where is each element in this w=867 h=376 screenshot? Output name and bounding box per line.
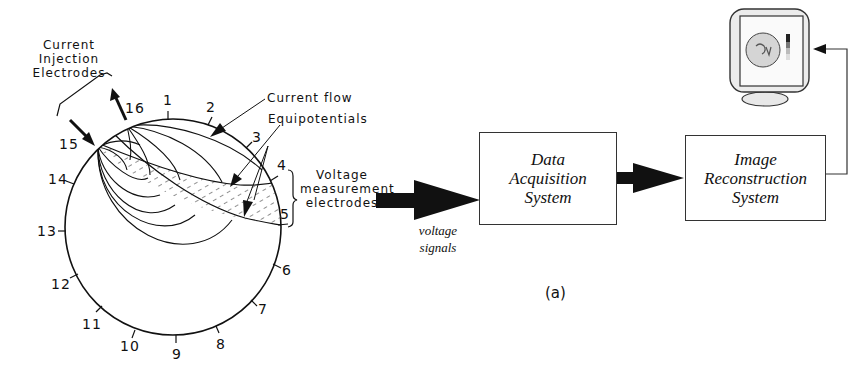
monitor-icon bbox=[730, 9, 809, 106]
equipotential-band bbox=[100, 133, 285, 226]
block-label: Data Acquisition System bbox=[509, 150, 586, 207]
electrode-15: 15 bbox=[59, 137, 79, 151]
data-acquisition-block: Data Acquisition System bbox=[479, 132, 617, 225]
voltage-measurement-label: Voltage measurement electrodes bbox=[300, 168, 384, 210]
label-line: Acquisition bbox=[509, 169, 586, 188]
electrode-13: 13 bbox=[37, 224, 57, 238]
label-line: Reconstruction bbox=[704, 169, 807, 188]
label-line: Injection bbox=[24, 52, 114, 66]
label-line: System bbox=[509, 188, 586, 207]
injection-electrodes-label: Current Injection Electrodes bbox=[24, 38, 114, 80]
label-line: voltage bbox=[410, 222, 466, 239]
data-flow-arrow bbox=[617, 163, 684, 193]
electrode-12: 12 bbox=[51, 277, 71, 291]
electrode-8: 8 bbox=[216, 337, 226, 351]
label-line: Electrodes bbox=[24, 66, 114, 80]
injection-arrow-out bbox=[110, 88, 126, 120]
block-label: Image Reconstruction System bbox=[704, 150, 807, 207]
label-line: signals bbox=[410, 239, 466, 256]
electrode-2: 2 bbox=[206, 100, 216, 114]
voltage-signals-label: voltage signals bbox=[410, 222, 466, 256]
electrode-16: 16 bbox=[125, 101, 145, 115]
electrode-10: 10 bbox=[120, 339, 140, 353]
label-line: Voltage bbox=[300, 168, 384, 182]
electrode-4: 4 bbox=[277, 158, 287, 172]
electrode-1: 1 bbox=[163, 93, 173, 107]
label-line: Image bbox=[704, 150, 807, 169]
label-line: System bbox=[704, 188, 807, 207]
electrode-3: 3 bbox=[252, 130, 262, 144]
image-reconstruction-block: Image Reconstruction System bbox=[685, 135, 826, 221]
label-line: Current bbox=[24, 38, 114, 52]
figure-caption: (a) bbox=[545, 284, 566, 302]
electrode-7: 7 bbox=[258, 302, 268, 316]
equipotentials-label: Equipotentials bbox=[268, 112, 368, 126]
label-line: electrodes bbox=[300, 196, 384, 210]
electrode-6: 6 bbox=[282, 263, 292, 277]
label-line: measurement bbox=[300, 182, 384, 196]
electrode-ticks bbox=[58, 111, 288, 343]
electrode-5: 5 bbox=[280, 207, 290, 221]
electrode-11: 11 bbox=[82, 317, 102, 331]
current-flow-label: Current flow bbox=[267, 91, 353, 105]
electrode-9: 9 bbox=[172, 347, 182, 361]
electrode-14: 14 bbox=[48, 172, 68, 186]
label-line: Data bbox=[509, 150, 586, 169]
